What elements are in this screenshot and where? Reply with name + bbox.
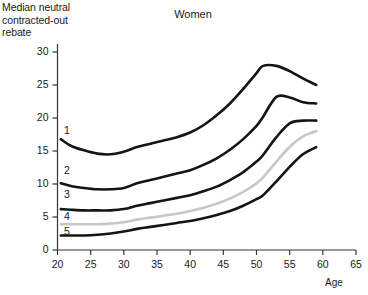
y-tick-label: 30	[23, 45, 49, 57]
series-label-1: 1	[60, 124, 74, 136]
y-tick-label: 25	[23, 78, 49, 90]
x-tick-label: 55	[277, 258, 303, 270]
y-tick-label: 5	[23, 210, 49, 222]
series-label-5: 5	[60, 225, 74, 237]
series-line-1	[61, 65, 316, 154]
x-tick-label: 30	[111, 258, 137, 270]
x-tick-label: 50	[244, 258, 270, 270]
x-tick-label: 35	[144, 258, 170, 270]
x-tick-label: 40	[177, 258, 203, 270]
x-tick-label: 65	[343, 258, 368, 270]
y-tick-label: 15	[23, 144, 49, 156]
x-tick-label: 60	[310, 258, 336, 270]
chart-figure: Median neutral contracted-out rebate Wom…	[0, 0, 368, 295]
plot-canvas	[0, 0, 368, 295]
x-tick-label: 20	[45, 258, 71, 270]
x-tick-label: 25	[78, 258, 104, 270]
x-tick-label: 45	[210, 258, 236, 270]
y-tick-label: 10	[23, 177, 49, 189]
series-label-3: 3	[60, 188, 74, 200]
y-tick-label: 20	[23, 111, 49, 123]
axis-lines	[58, 44, 357, 250]
y-tick-label: 0	[23, 243, 49, 255]
series-label-4: 4	[60, 210, 74, 222]
series-label-2: 2	[60, 164, 74, 176]
series-line-2	[61, 95, 316, 189]
